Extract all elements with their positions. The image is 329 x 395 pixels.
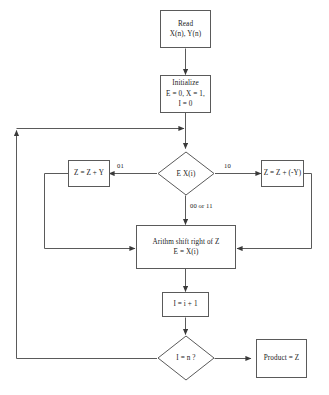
node-read-line1: Read [178,19,193,29]
node-sub-y-label: Z = Z + (-Y) [264,168,302,178]
node-add-y[interactable]: Z = Z + Y [68,160,110,187]
node-initialize-line3: I = 0 [178,99,192,109]
edge-label-right-branch: 10 [224,162,231,169]
node-initialize[interactable]: Initialize E = 0, X = 1, I = 0 [160,75,211,113]
node-shift-line1: Arithm shift right of Z [153,237,220,247]
node-test-bits-label: E X(i) [177,170,196,178]
node-shift-line2: E = X(i) [174,247,199,257]
edge-label-left-branch: 01 [117,162,124,169]
node-increment-label: I = i + 1 [173,299,197,309]
node-test-bits[interactable]: E X(i) [157,151,215,196]
node-add-y-label: Z = Z + Y [74,168,104,178]
node-read-line2: X(n), Y(n) [170,29,201,39]
node-check-done-label: I = n ? [176,354,195,362]
node-product[interactable]: Product = Z [256,339,307,378]
node-check-done[interactable]: I = n ? [157,335,215,381]
node-increment[interactable]: I = i + 1 [162,292,209,317]
flowchart-canvas: Read X(n), Y(n) Initialize E = 0, X = 1,… [0,0,329,395]
edge-label-down-branch: 00 or 11 [190,202,213,209]
node-read[interactable]: Read X(n), Y(n) [160,10,211,48]
node-product-label: Product = Z [264,353,300,363]
node-shift[interactable]: Arithm shift right of Z E = X(i) [136,225,236,269]
node-initialize-line1: Initialize [172,78,199,88]
node-initialize-line2: E = 0, X = 1, [166,89,205,99]
node-sub-y[interactable]: Z = Z + (-Y) [261,160,304,187]
